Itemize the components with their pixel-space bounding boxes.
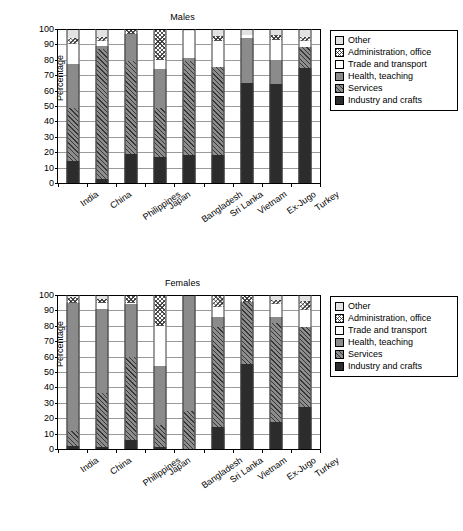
stacked-bar[interactable] — [95, 29, 108, 183]
bar-segment-other[interactable] — [212, 29, 225, 36]
legend-item-health[interactable]: Health, teaching — [335, 70, 453, 82]
legend-males: OtherAdministration, officeTrade and tra… — [330, 30, 458, 111]
bar-segment-industry[interactable] — [95, 179, 108, 183]
stacked-bar[interactable] — [124, 295, 137, 449]
stacked-bar[interactable] — [95, 295, 108, 449]
bar-segment-services[interactable] — [124, 61, 137, 153]
bar-segment-other[interactable] — [299, 29, 312, 37]
stacked-bar[interactable] — [299, 29, 312, 183]
bar-segment-health[interactable] — [66, 64, 79, 107]
bar-segment-services[interactable] — [66, 108, 79, 162]
legend-item-admin[interactable]: Administration, office — [335, 312, 453, 324]
stacked-bar[interactable] — [182, 295, 195, 449]
bar-segment-trade[interactable] — [212, 307, 225, 316]
stacked-bar[interactable] — [124, 29, 137, 183]
legend-item-trade[interactable]: Trade and transport — [335, 324, 453, 336]
stacked-bar[interactable] — [299, 295, 312, 449]
bar-segment-services[interactable] — [124, 357, 137, 440]
bar-segment-health[interactable] — [153, 366, 166, 425]
x-tick-mark — [58, 183, 59, 187]
stacked-bar[interactable] — [212, 29, 225, 183]
bar-segment-services[interactable] — [299, 327, 312, 407]
bar-segment-services[interactable] — [270, 323, 283, 422]
bar-segment-services[interactable] — [182, 411, 195, 449]
bar-segment-admin[interactable] — [241, 295, 254, 302]
legend-label: Services — [348, 349, 383, 360]
y-tick-label: 60 — [44, 352, 54, 362]
stacked-bar[interactable] — [153, 29, 166, 183]
legend-item-industry[interactable]: Industry and crafts — [335, 94, 453, 106]
bar-segment-health[interactable] — [66, 303, 79, 432]
bar-segment-health[interactable] — [182, 295, 195, 411]
stacked-bar[interactable] — [182, 29, 195, 183]
bar-segment-industry[interactable] — [153, 157, 166, 183]
bar-segment-industry[interactable] — [299, 407, 312, 449]
legend-item-health[interactable]: Health, teaching — [335, 336, 453, 348]
bar-segment-industry[interactable] — [95, 447, 108, 449]
bar-segment-trade[interactable] — [182, 31, 195, 59]
bar-segment-health[interactable] — [212, 317, 225, 328]
bar-segment-services[interactable] — [212, 327, 225, 426]
bar-segment-trade[interactable] — [270, 304, 283, 316]
bar-segment-industry[interactable] — [182, 155, 195, 183]
legend-item-services[interactable]: Services — [335, 82, 453, 94]
legend-item-industry[interactable]: Industry and crafts — [335, 360, 453, 372]
stacked-bar[interactable] — [66, 29, 79, 183]
bar-segment-health[interactable] — [95, 309, 108, 393]
legend-item-other[interactable]: Other — [335, 300, 453, 312]
bar-segment-admin[interactable] — [153, 29, 166, 60]
bar-segment-health[interactable] — [124, 34, 137, 62]
bar-segment-admin[interactable] — [153, 295, 166, 326]
stacked-bar[interactable] — [241, 295, 254, 449]
bar-segment-other[interactable] — [95, 29, 108, 37]
bar-segment-services[interactable] — [95, 49, 108, 179]
bar-segment-industry[interactable] — [66, 446, 79, 449]
bar-segment-services[interactable] — [153, 108, 166, 157]
bar-segment-services[interactable] — [212, 67, 225, 156]
bar-segment-services[interactable] — [299, 47, 312, 67]
bar-segment-health[interactable] — [241, 38, 254, 83]
stacked-bar[interactable] — [241, 29, 254, 183]
stacked-bar[interactable] — [66, 295, 79, 449]
x-tick-label-china: China — [108, 189, 133, 211]
bar-segment-admin[interactable] — [299, 301, 312, 310]
bar-segment-industry[interactable] — [241, 83, 254, 183]
bar-segment-industry[interactable] — [212, 427, 225, 449]
bar-segment-trade[interactable] — [299, 310, 312, 327]
bar-slot — [291, 29, 320, 183]
legend-item-admin[interactable]: Administration, office — [335, 46, 453, 58]
bar-segment-trade[interactable] — [153, 326, 166, 366]
bar-segment-admin[interactable] — [212, 295, 225, 307]
bar-segment-services[interactable] — [95, 393, 108, 448]
bar-segment-industry[interactable] — [299, 68, 312, 184]
stacked-bar[interactable] — [212, 295, 225, 449]
bar-segment-health[interactable] — [270, 60, 283, 85]
bar-segment-industry[interactable] — [153, 447, 166, 449]
legend-item-other[interactable]: Other — [335, 34, 453, 46]
bar-segment-health[interactable] — [124, 304, 137, 356]
bar-segment-trade[interactable] — [270, 40, 283, 60]
bar-segment-trade[interactable] — [153, 60, 166, 69]
legend-item-trade[interactable]: Trade and transport — [335, 58, 453, 70]
bar-segment-services[interactable] — [66, 431, 79, 446]
stacked-bar[interactable] — [153, 295, 166, 449]
bar-segment-industry[interactable] — [270, 422, 283, 449]
x-tick-mark — [87, 449, 88, 453]
bar-segment-industry[interactable] — [124, 440, 137, 449]
bar-segment-industry[interactable] — [124, 154, 137, 183]
bar-segment-trade[interactable] — [66, 44, 79, 64]
stacked-bar[interactable] — [270, 295, 283, 449]
bar-segment-trade[interactable] — [212, 41, 225, 67]
bar-segment-other[interactable] — [66, 29, 79, 38]
legend-item-services[interactable]: Services — [335, 348, 453, 360]
stacked-bar[interactable] — [270, 29, 283, 183]
bar-segment-services[interactable] — [153, 425, 166, 447]
bar-segment-services[interactable] — [182, 61, 195, 155]
bar-segment-industry[interactable] — [66, 161, 79, 183]
bar-segment-industry[interactable] — [270, 84, 283, 183]
bar-segment-services[interactable] — [241, 302, 254, 364]
bar-segment-admin[interactable] — [124, 295, 137, 303]
bar-segment-industry[interactable] — [241, 364, 254, 449]
bar-segment-industry[interactable] — [212, 155, 225, 183]
bar-segment-health[interactable] — [153, 69, 166, 108]
